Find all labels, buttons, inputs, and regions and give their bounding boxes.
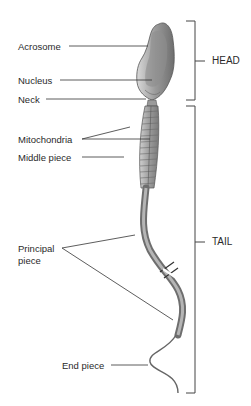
sperm-end-piece: [150, 335, 178, 393]
label-acrosome: Acrosome: [18, 41, 61, 52]
section-head-label: HEAD: [212, 55, 240, 66]
label-end-piece: End piece: [62, 360, 104, 371]
label-principal-piece-line2: piece: [18, 255, 41, 266]
sperm-middle-piece: [140, 106, 159, 188]
sperm-head: [137, 23, 175, 100]
label-nucleus: Nucleus: [18, 75, 52, 86]
label-middle-piece: Middle piece: [18, 152, 71, 163]
section-brackets: [186, 21, 205, 393]
label-principal-piece-line1: Principal: [18, 243, 54, 254]
sperm-neck: [147, 100, 157, 106]
sperm-principal-piece: [144, 188, 183, 335]
label-neck: Neck: [18, 94, 40, 105]
section-tail-label: TAIL: [212, 236, 232, 247]
label-mitochondria: Mitochondria: [18, 134, 72, 145]
